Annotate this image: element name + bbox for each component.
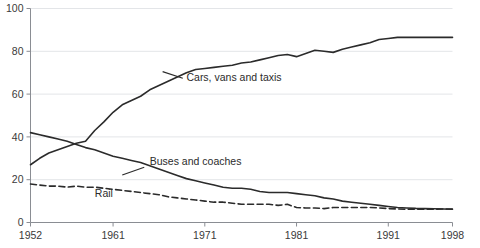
y-tick-label-100: 100 [6, 2, 24, 14]
x-tick-label-1961: 1961 [101, 229, 125, 241]
y-tick-label-40: 40 [12, 131, 24, 143]
x-tick-label-1952: 1952 [19, 229, 43, 241]
x-axis: 195219611971198119911998 [19, 223, 465, 241]
chart-container: 020406080100 195219611971198119911998 Ca… [0, 0, 480, 248]
x-tick-label-1991: 1991 [377, 229, 401, 241]
x-tick-label-1981: 1981 [285, 229, 309, 241]
transport-modal-share-line-chart: 020406080100 195219611971198119911998 Ca… [0, 0, 480, 248]
y-tick-label-20: 20 [12, 173, 24, 185]
y-axis: 020406080100 [6, 2, 31, 228]
x-tick-label-1971: 1971 [193, 229, 217, 241]
y-tick-label-60: 60 [12, 88, 24, 100]
series-line-cars-vans-and-taxis [31, 37, 453, 164]
y-tick-label-0: 0 [18, 216, 24, 228]
gridlines [31, 9, 453, 180]
series-line-buses-and-coaches [31, 133, 453, 210]
series-label-cars-vans-and-taxis: Cars, vans and taxis [186, 71, 281, 83]
y-tick-label-80: 80 [12, 45, 24, 57]
leader-buses [122, 167, 144, 175]
x-tick-label-1998: 1998 [441, 229, 465, 241]
series-label-buses-and-coaches: Buses and coaches [150, 155, 242, 167]
chart-caption [0, 240, 480, 248]
series-label-rail: Rail [95, 187, 113, 199]
series-lines [31, 37, 453, 209]
